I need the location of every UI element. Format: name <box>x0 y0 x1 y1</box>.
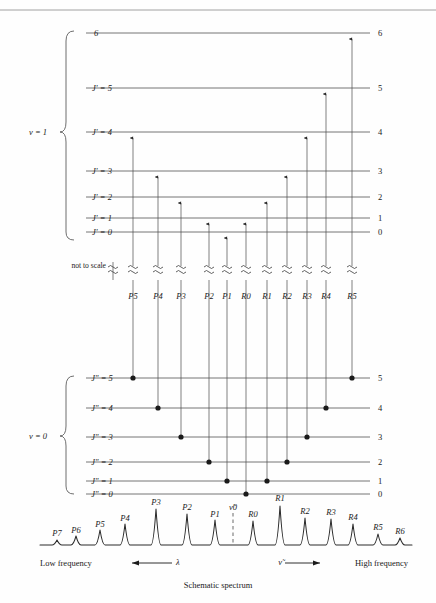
upper-state-label: v = 1 <box>29 128 47 137</box>
spectrum-peak-label-P5: P5 <box>95 520 104 529</box>
lower-level-right-label-0: 0 <box>378 490 382 499</box>
transition-label-R5: R5 <box>347 292 356 301</box>
upper-level-lines <box>86 33 370 232</box>
lambda-direction-arrow <box>132 560 172 565</box>
upper-state-brace <box>60 31 74 240</box>
origin-dot-R4 <box>323 405 328 410</box>
spectrum-peak-label-R6: R6 <box>395 527 404 536</box>
not-to-scale-break-marks <box>108 266 357 274</box>
nu-direction-arrow <box>285 560 320 565</box>
transition-label-R4: R4 <box>321 292 330 301</box>
spectrum-peak-label-P7: P7 <box>52 529 61 538</box>
band-origin-label: ν̃0 <box>229 503 237 512</box>
upper-level-left-label-0: J' = 0 <box>92 228 112 237</box>
origin-dot-P3 <box>178 434 183 439</box>
spectrum-peak-label-R5: R5 <box>373 523 382 532</box>
transition-label-P1: P1 <box>222 292 231 301</box>
origin-dot-P4 <box>155 405 160 410</box>
lambda-label: λ <box>176 558 180 567</box>
spectrum-peak-label-R0: R0 <box>248 510 257 519</box>
upper-level-left-label-1: J' = 1 <box>92 214 112 223</box>
low-frequency-label: Low frequency <box>40 559 92 568</box>
lower-level-right-label-1: 1 <box>378 477 382 486</box>
figure-caption: Schematic spectrum <box>184 581 253 590</box>
origin-dot-P1 <box>224 478 229 483</box>
lower-level-left-label-0: J" = 0 <box>91 490 113 499</box>
upper-level-left-label-2: J' = 2 <box>92 193 112 202</box>
transition-label-R1: R1 <box>262 292 271 301</box>
upper-level-right-label-2: 2 <box>378 193 382 202</box>
upper-level-right-label-5: 5 <box>378 84 382 93</box>
upper-level-right-label-3: 3 <box>378 167 382 176</box>
figure-root: v = 1 6 J' = 5 J' = 4 J' = 3 J' = 2 J' =… <box>0 0 436 603</box>
lower-level-left-label-5: J" = 5 <box>91 374 113 383</box>
origin-dot-P2 <box>206 459 211 464</box>
spectrum-peak-label-P2: P2 <box>182 503 191 512</box>
transition-label-R2: R2 <box>282 292 291 301</box>
lower-state-label: v = 0 <box>29 432 47 441</box>
transition-label-R3: R3 <box>302 292 311 301</box>
origin-dot-R2 <box>284 459 289 464</box>
lower-level-lines <box>86 378 370 494</box>
origin-dot-R3 <box>304 434 309 439</box>
upper-level-left-label-3: J' = 3 <box>92 167 112 176</box>
spectrum-peak-label-R2: R2 <box>300 507 309 516</box>
lower-level-left-label-4: J" = 4 <box>91 404 113 413</box>
upper-level-left-label-5: J' = 5 <box>92 84 112 93</box>
upper-level-right-label-6: 6 <box>378 29 382 38</box>
transition-label-R0: R0 <box>241 292 250 301</box>
high-frequency-label: High frequency <box>355 559 408 568</box>
spectrum-peak-label-P3: P3 <box>151 498 160 507</box>
origin-dot-R1 <box>264 478 269 483</box>
origin-dot-R5 <box>349 375 354 380</box>
lower-level-left-label-2: J" = 2 <box>91 458 113 467</box>
origin-dot-P5 <box>130 375 135 380</box>
origin-dot-R0 <box>243 491 248 496</box>
transition-label-P2: P2 <box>204 292 213 301</box>
spectrum-peak-label-P4: P4 <box>120 514 129 523</box>
upper-level-right-label-0: 0 <box>378 228 382 237</box>
upper-level-right-label-4: 4 <box>378 128 382 137</box>
spectrum-peak-label-P1: P1 <box>210 510 219 519</box>
transition-origin-dots <box>130 375 354 496</box>
spectrum-peak-label-R3: R3 <box>326 508 335 517</box>
lower-state-brace <box>60 376 74 494</box>
transition-label-P5: P5 <box>128 292 137 301</box>
lower-level-right-label-5: 5 <box>378 374 382 383</box>
nu-tilde-label: ν̃ <box>278 558 282 567</box>
transition-label-P3: P3 <box>176 292 185 301</box>
lower-level-left-label-1: J" = 1 <box>91 477 113 486</box>
not-to-scale-note: not to scale <box>71 262 106 270</box>
lower-level-right-label-4: 4 <box>378 404 382 413</box>
transition-label-P4: P4 <box>153 292 162 301</box>
spectrum-peak-label-P6: P6 <box>71 526 80 535</box>
lower-level-right-label-3: 3 <box>378 433 382 442</box>
spectrum-peak-label-R4: R4 <box>348 513 357 522</box>
upper-level-left-label-6: 6 <box>94 29 98 38</box>
lower-level-right-label-2: 2 <box>378 458 382 467</box>
upper-level-left-label-4: J' = 4 <box>92 128 112 137</box>
spectrum-peak-label-R1: R1 <box>275 494 284 503</box>
upper-level-right-label-1: 1 <box>378 214 382 223</box>
lower-level-left-label-3: J" = 3 <box>91 433 113 442</box>
